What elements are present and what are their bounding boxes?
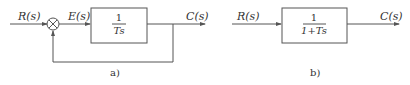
block-a-denominator: Ts [113,25,124,36]
diagram-b: R(s) 1 1+Ts C(s) b) [232,8,403,78]
block-b-numerator: 1 [311,12,317,23]
input-label-b: R(s) [236,10,260,23]
output-label-b: C(s) [380,10,403,23]
block-a-numerator: 1 [116,12,122,23]
summing-junction-icon [47,18,59,30]
block-diagrams: R(s) E(s) 1 Ts C(s) a) R(s) 1 1+Ts C(s) … [0,0,410,85]
caption-a: a) [110,67,120,78]
block-b-denominator: 1+Ts [301,25,327,36]
input-label-a: R(s) [17,10,41,23]
error-label: E(s) [67,10,90,23]
diagram-a: R(s) E(s) 1 Ts C(s) a) [10,8,209,78]
caption-b: b) [310,67,320,78]
output-label-a: C(s) [186,10,209,23]
